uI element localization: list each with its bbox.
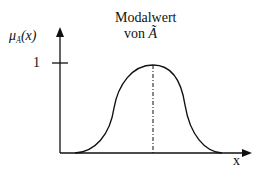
mu-symbol: μ — [9, 28, 16, 43]
mu-argument: (x) — [21, 28, 37, 43]
fuzzy-set-symbol: Ã — [149, 26, 158, 41]
y-tick-label: 1 — [33, 56, 40, 70]
modal-value-subtitle: von Ã — [124, 27, 157, 41]
x-axis-arrow-icon — [242, 149, 252, 157]
subtitle-prefix: von — [124, 26, 145, 41]
y-axis-arrow-icon — [56, 27, 64, 37]
membership-curve — [75, 65, 222, 153]
modal-value-title: Modalwert — [115, 11, 176, 25]
y-axis-label: μÃ(x) — [9, 29, 36, 45]
x-axis-label: x — [233, 154, 240, 168]
